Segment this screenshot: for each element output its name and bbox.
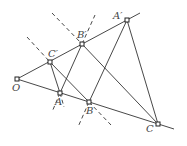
label-o: O	[12, 83, 20, 93]
label-c: C	[146, 124, 154, 134]
label-a: A	[55, 97, 62, 107]
point-b-prime	[80, 42, 84, 46]
label-b: B	[86, 106, 93, 116]
ray-o-c	[17, 79, 174, 129]
point-c-prime	[48, 60, 52, 64]
point-a-prime	[125, 18, 129, 22]
segment-b-prime-a	[60, 44, 82, 93]
ray-o-a-prime	[17, 13, 140, 79]
point-a	[58, 91, 62, 95]
segment-a-prime-c	[127, 20, 158, 124]
label-b-prime: B′	[77, 30, 87, 40]
point-c	[156, 122, 160, 126]
point-o	[15, 77, 19, 81]
geometry-diagram	[0, 0, 187, 146]
dashed-line-c-prime	[27, 37, 50, 62]
point-b	[87, 100, 91, 104]
label-a-prime: A′	[113, 11, 123, 21]
label-c-prime: C′	[48, 49, 58, 59]
segment-a-prime-b	[89, 20, 127, 102]
